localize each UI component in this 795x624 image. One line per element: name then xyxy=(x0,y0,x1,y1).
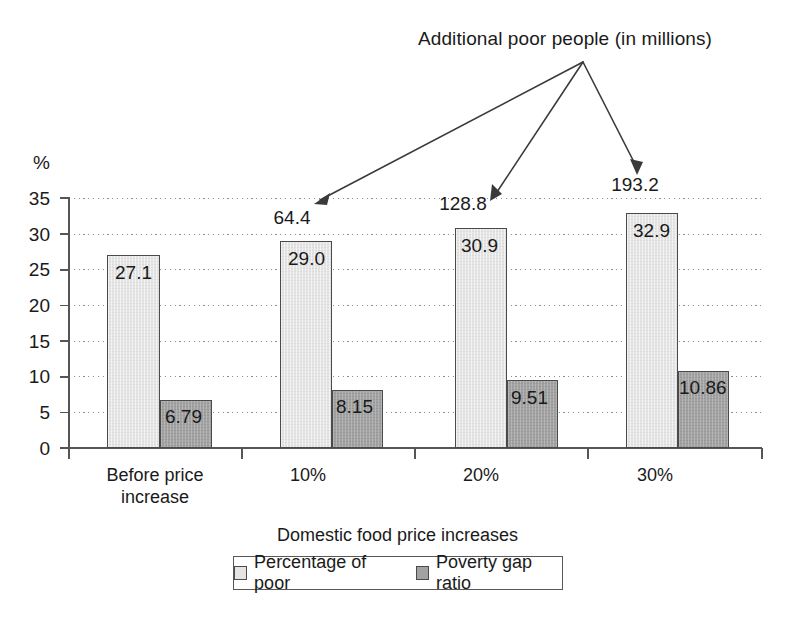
bar-percentage-of-poor-20 xyxy=(455,228,507,449)
y-tick-label-10: 10 xyxy=(14,367,50,386)
bar-percentage-of-poor-30 xyxy=(626,213,678,448)
legend-item-poverty-gap-ratio[interactable]: Poverty gap ratio xyxy=(416,552,562,594)
y-axis xyxy=(60,197,69,449)
legend: Percentage of poor Poverty gap ratio xyxy=(233,556,563,590)
x-tick-label-10: 10% xyxy=(268,464,348,486)
total-label-30: 193.2 xyxy=(590,175,680,194)
y-tick-label-30: 30 xyxy=(14,225,50,244)
bar-value-label: 6.79 xyxy=(165,407,202,426)
bar-percentage-of-poor-before-price-increase xyxy=(107,255,160,449)
y-tick-label-5: 5 xyxy=(14,403,50,422)
legend-swatch-icon xyxy=(234,566,247,580)
x-tick-line-1: Before price increase xyxy=(106,465,203,507)
legend-swatch-icon xyxy=(416,566,429,580)
bar-value-label: 10.86 xyxy=(679,378,727,397)
y-tick-label-35: 35 xyxy=(14,189,50,208)
x-axis xyxy=(69,448,762,459)
x-tick-label-20: 20% xyxy=(441,464,521,486)
legend-item-percentage-of-poor[interactable]: Percentage of poor xyxy=(234,552,396,594)
y-axis-unit-label: % xyxy=(33,152,50,174)
bar-chart: Additional poor people (in millions) % 3… xyxy=(0,0,795,624)
y-tick-label-20: 20 xyxy=(14,296,50,315)
bar-value-label: 29.0 xyxy=(288,249,325,268)
bar-percentage-of-poor-10 xyxy=(280,241,332,448)
y-tick-label-15: 15 xyxy=(14,332,50,351)
x-tick-label-before-price-increase: Before price increase xyxy=(95,464,215,508)
legend-label: Percentage of poor xyxy=(254,552,396,594)
bar-value-label: 30.9 xyxy=(461,236,498,255)
bar-value-label: 9.51 xyxy=(511,388,548,407)
y-tick-label-0: 0 xyxy=(14,439,50,458)
total-label-10: 64.4 xyxy=(252,208,332,227)
x-tick-label-30: 30% xyxy=(615,464,695,486)
x-axis-title: Domestic food price increases xyxy=(0,525,795,546)
legend-label: Poverty gap ratio xyxy=(436,552,562,594)
bar-value-label: 32.9 xyxy=(633,221,670,240)
bar-value-label: 27.1 xyxy=(115,263,152,282)
y-tick-label-25: 25 xyxy=(14,260,50,279)
bar-value-label: 8.15 xyxy=(336,397,373,416)
annotation-title: Additional poor people (in millions) xyxy=(418,28,712,50)
total-label-20: 128.8 xyxy=(418,194,508,213)
